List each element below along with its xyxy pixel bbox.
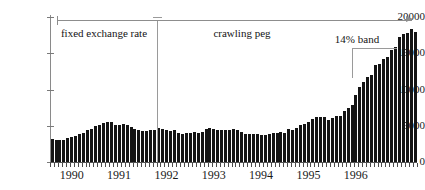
x-tick-mark (378, 163, 379, 167)
x-tick-mark (381, 163, 382, 167)
x-tick-mark (141, 163, 142, 167)
x-tick-mark (342, 163, 343, 167)
x-tick-mark (78, 163, 79, 167)
x-tick-mark (50, 163, 51, 167)
bar (260, 135, 263, 162)
bar (62, 140, 65, 162)
x-tick-mark (374, 163, 375, 167)
bar (358, 87, 361, 162)
bar (402, 34, 405, 162)
bar (339, 116, 342, 162)
bar (291, 130, 294, 162)
bar (94, 126, 97, 162)
x-tick-mark (299, 163, 300, 167)
annotation-crawling-peg: crawling peg (213, 27, 270, 39)
x-tick-label: 1991 (107, 168, 131, 182)
x-tick-label: 1994 (249, 168, 273, 182)
x-tick-mark (184, 163, 185, 167)
bar (295, 128, 298, 162)
bar (114, 125, 117, 162)
bar (248, 134, 251, 162)
x-tick-mark (58, 163, 59, 167)
bar (351, 105, 354, 162)
bar (378, 64, 381, 162)
x-tick-mark (413, 163, 414, 167)
x-tick-mark (192, 163, 193, 167)
regime-divider-tick (153, 17, 162, 18)
bar (244, 134, 247, 162)
bar (311, 119, 314, 162)
x-tick-mark (129, 163, 130, 167)
x-tick-label: 1995 (296, 168, 320, 182)
annotation-fixed-exchange-rate: fixed exchange rate (61, 27, 147, 39)
bar (264, 135, 267, 162)
x-tick-mark (232, 163, 233, 167)
bar (414, 32, 417, 162)
bar (268, 134, 271, 162)
x-tick-mark (157, 163, 158, 167)
bar (335, 116, 338, 162)
x-tick-mark (105, 163, 106, 167)
x-tick-mark (62, 163, 63, 167)
bar (58, 140, 61, 162)
bar (323, 117, 326, 162)
x-tick-mark (176, 163, 177, 167)
x-tick-mark (385, 163, 386, 167)
bar (303, 124, 306, 162)
x-tick-mark (204, 163, 205, 167)
x-tick-mark (247, 163, 248, 167)
x-tick-mark (54, 163, 55, 167)
bar (74, 136, 77, 162)
bar (145, 131, 148, 162)
x-tick-mark (125, 163, 126, 167)
x-tick-mark (346, 163, 347, 167)
bar (165, 130, 168, 162)
bar (287, 129, 290, 162)
x-tick-mark (279, 163, 280, 167)
bar (82, 133, 85, 162)
regime-arrow-head-icon (406, 16, 413, 22)
x-tick-mark (267, 163, 268, 167)
x-tick-mark (137, 163, 138, 167)
x-tick-mark (295, 163, 296, 167)
x-tick-mark (89, 163, 90, 167)
bar (228, 130, 231, 162)
x-tick-mark (303, 163, 304, 167)
x-tick-mark (417, 163, 418, 167)
x-tick-label: 1990 (60, 168, 84, 182)
bar (177, 133, 180, 162)
bar (327, 120, 330, 162)
band-bracket-horizontal (352, 48, 397, 49)
x-tick-mark (239, 163, 240, 167)
x-tick-mark (121, 163, 122, 167)
bar (347, 108, 350, 162)
x-tick-mark (216, 163, 217, 167)
x-tick-mark (228, 163, 229, 167)
x-tick-label: 1992 (154, 168, 178, 182)
bar (78, 134, 81, 162)
x-tick-mark (188, 163, 189, 167)
bar (189, 133, 192, 162)
bar (133, 129, 136, 162)
bar (354, 95, 357, 162)
bar (197, 133, 200, 162)
bar (70, 137, 73, 162)
bar (366, 77, 369, 162)
x-tick-mark (224, 163, 225, 167)
bar (193, 132, 196, 162)
bar (410, 29, 413, 162)
x-tick-mark (149, 163, 150, 167)
bar (141, 131, 144, 162)
x-tick-mark (113, 163, 114, 167)
regime-divider-line (157, 21, 158, 162)
x-tick-mark (275, 163, 276, 167)
x-tick-mark (145, 163, 146, 167)
bar (102, 123, 105, 162)
x-tick-mark (82, 163, 83, 167)
x-tick-label: 1996 (344, 168, 368, 182)
x-tick-mark (318, 163, 319, 167)
x-tick-mark (101, 163, 102, 167)
exchange-rate-bar-chart: 05000100001500020000 1990199119921993199… (0, 0, 425, 190)
x-tick-mark (255, 163, 256, 167)
bar (161, 129, 164, 162)
